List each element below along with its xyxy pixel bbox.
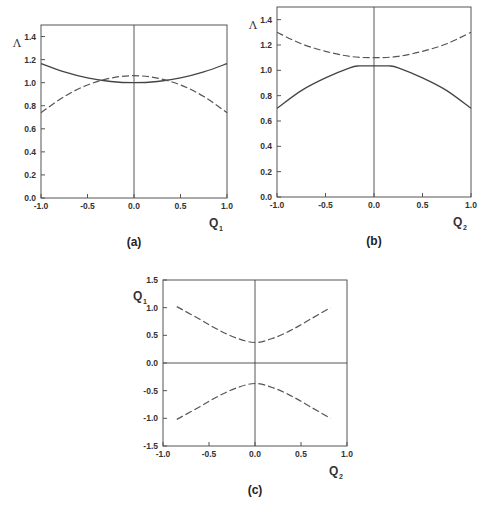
y-tick-label: 0.0 — [260, 192, 272, 202]
series-lower-line — [177, 384, 331, 420]
y-tick-label: 0.8 — [260, 91, 272, 101]
panel-a: -1.0-0.50.00.51.00.00.20.40.60.81.01.21.… — [12, 25, 233, 249]
x-tick-label: 0.5 — [295, 449, 307, 459]
y-axis-label-subscript: 1 — [143, 298, 147, 305]
series-upper-line — [177, 307, 331, 343]
panel-caption: (c) — [248, 483, 263, 497]
x-tick-label: 1.0 — [465, 200, 477, 210]
y-tick-label: 0.4 — [260, 141, 272, 151]
y-tick-label: 1.4 — [260, 15, 272, 25]
x-tick-label: -0.5 — [202, 449, 217, 459]
panel-c: -1.0-0.50.00.51.0-1.5-1.0-0.50.00.51.01.… — [133, 275, 353, 497]
x-tick-label: 0.0 — [368, 200, 380, 210]
x-tick-label: 0.5 — [417, 200, 429, 210]
x-axis-label-subscript: 2 — [339, 473, 343, 480]
y-tick-label: 1.4 — [24, 32, 36, 42]
y-tick-label: 0.2 — [24, 170, 36, 180]
x-tick-label: -0.5 — [80, 201, 95, 211]
x-axis-label: Q — [453, 215, 462, 229]
x-axis-label: Q — [209, 216, 218, 230]
x-tick-label: 0.0 — [249, 449, 261, 459]
x-tick-label: -0.5 — [318, 200, 333, 210]
x-axis-label: Q — [329, 464, 338, 478]
y-axis-label: Q — [133, 289, 142, 303]
panel-caption: (a) — [127, 235, 142, 249]
y-tick-label: 1.0 — [260, 65, 272, 75]
figure-canvas: -1.0-0.50.00.51.00.00.20.40.60.81.01.21.… — [0, 0, 491, 519]
y-tick-label: 0.6 — [260, 116, 272, 126]
y-tick-label: 0.5 — [146, 330, 158, 340]
y-tick-label: 0.2 — [260, 167, 272, 177]
y-tick-label: -1.0 — [143, 413, 158, 423]
y-axis-label: Λ — [12, 37, 22, 50]
x-tick-label: 0.5 — [175, 201, 187, 211]
y-tick-label: 0.6 — [24, 124, 36, 134]
panel-b: -1.0-0.50.00.51.00.00.20.40.60.81.01.21.… — [248, 7, 477, 248]
y-tick-label: 1.2 — [24, 55, 36, 65]
y-tick-label: -1.5 — [143, 441, 158, 451]
y-tick-label: 1.0 — [24, 78, 36, 88]
panel-caption: (b) — [366, 234, 381, 248]
x-tick-label: 1.0 — [221, 201, 233, 211]
x-axis-label-subscript: 1 — [219, 225, 223, 232]
x-tick-label: 1.0 — [341, 449, 353, 459]
x-axis-label-subscript: 2 — [463, 224, 467, 231]
y-tick-label: 0.0 — [24, 193, 36, 203]
y-tick-label: 0.4 — [24, 147, 36, 157]
y-tick-label: 1.5 — [146, 275, 158, 285]
y-axis-label: Λ — [248, 19, 258, 32]
y-tick-label: 0.0 — [146, 358, 158, 368]
x-tick-label: 0.0 — [128, 201, 140, 211]
y-tick-label: 1.0 — [146, 303, 158, 313]
y-tick-label: -0.5 — [143, 386, 158, 396]
y-tick-label: 1.2 — [260, 40, 272, 50]
y-tick-label: 0.8 — [24, 101, 36, 111]
